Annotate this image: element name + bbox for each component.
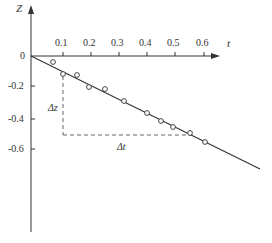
data-point	[103, 87, 108, 92]
x-tick-label: 0.3	[111, 38, 124, 48]
x-ticks	[63, 52, 204, 56]
delta-z-label: Δz	[48, 103, 58, 113]
data-point	[61, 72, 66, 77]
x-axis-label: t	[227, 38, 230, 49]
x-tick-label: 0.1	[55, 38, 68, 48]
y-tick-label: -0.2	[8, 81, 24, 91]
x-tick-label: 0.4	[139, 38, 152, 48]
x-tick-label: 0.6	[196, 38, 209, 48]
x-axis-arrow-icon	[211, 53, 220, 59]
y-axis-arrow-icon	[28, 5, 34, 14]
origin-label: 0	[20, 51, 25, 61]
data-point	[87, 85, 92, 90]
x-tick-label: 0.2	[83, 38, 96, 48]
y-axis-label: Z	[16, 3, 22, 14]
x-tick-label: 0.5	[167, 38, 180, 48]
data-point	[188, 131, 193, 136]
delta-t-label: Δt	[117, 142, 126, 152]
y-tick-label: -0.6	[8, 144, 24, 154]
data-point	[159, 119, 164, 124]
data-point	[75, 73, 80, 78]
data-point	[51, 60, 56, 65]
data-point	[122, 99, 127, 104]
data-point	[145, 111, 150, 116]
y-ticks	[31, 86, 35, 149]
data-point	[171, 125, 176, 130]
chart-canvas	[0, 0, 272, 243]
y-tick-label: -0.4	[8, 114, 24, 124]
data-point	[203, 140, 208, 145]
